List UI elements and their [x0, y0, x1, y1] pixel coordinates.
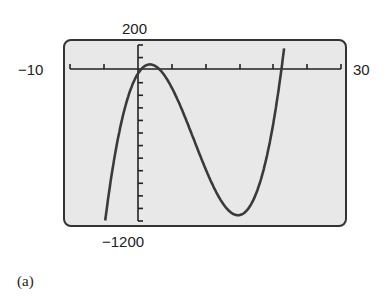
ymin-label: −1200: [102, 233, 144, 250]
figure-caption: (a): [17, 273, 34, 290]
xmin-label: −10: [18, 61, 43, 78]
graphing-calculator-screen: [0, 0, 389, 303]
xmax-label: 30: [353, 61, 370, 78]
ymax-label: 200: [122, 20, 147, 37]
screen-frame: [64, 40, 346, 226]
